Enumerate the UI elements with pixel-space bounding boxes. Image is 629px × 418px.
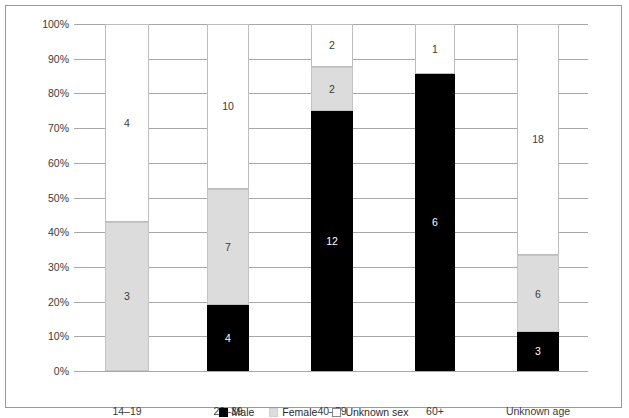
bar-segment-female[interactable]: 3 [105,222,149,371]
y-axis-label-10: 10% [25,330,69,342]
legend-item-unknown-sex[interactable]: Unknown sex [332,406,408,418]
tick-90 [74,59,105,60]
bar-segment-female[interactable]: 6 [517,255,559,332]
bar-value-label: 2 [329,40,335,51]
bar-segment-male[interactable]: 6 [415,74,455,371]
bar-value-label: 18 [532,134,544,145]
bar-value-label: 2 [329,84,335,95]
bar-segment-male[interactable]: 4 [207,305,249,371]
tick-20 [74,302,105,303]
legend-swatch-female-icon [269,408,278,417]
bar-column-20-39[interactable]: 4 7 10 [207,24,249,371]
y-axis-label-30: 30% [25,261,69,273]
y-axis-label-0: 0% [25,365,69,377]
tick-10 [74,336,105,337]
legend-swatch-unknown-sex-icon [332,408,341,417]
legend-label-unknown-sex: Unknown sex [345,406,408,418]
plot-area: 0% 10% 20% 30% 40% 50% 60% 70% 80% 90% 1… [105,24,588,371]
bar-column-unknown-age[interactable]: 3 6 18 [517,24,559,371]
y-axis-label-20: 20% [25,296,69,308]
bar-segment-female[interactable]: 2 [311,67,353,110]
bar-segment-unknown-sex[interactable]: 4 [105,24,149,222]
tick-50 [74,198,105,199]
bar-column-60-plus[interactable]: 6 1 [415,24,455,371]
bar-value-label: 7 [225,242,231,253]
bar-value-label: 1 [432,44,438,55]
x-axis-line [74,371,588,372]
bar-value-label: 3 [535,346,541,357]
y-axis-label-100: 100% [25,18,69,30]
chart-legend: Male Female Unknown sex [6,406,621,418]
tick-30 [74,267,105,268]
legend-label-male: Male [232,406,255,418]
tick-40 [74,232,105,233]
bar-segment-unknown-sex[interactable]: 2 [311,24,353,67]
tick-100 [74,24,105,25]
bar-value-label: 6 [535,289,541,300]
bar-segment-unknown-sex[interactable]: 1 [415,24,455,74]
y-axis-label-90: 90% [25,53,69,65]
legend-item-female[interactable]: Female [269,406,317,418]
bar-segment-male[interactable]: 3 [517,332,559,371]
chart-frame: 0% 10% 20% 30% 40% 50% 60% 70% 80% 90% 1… [5,5,622,408]
bar-column-14-19[interactable]: 3 4 [105,24,149,371]
legend-swatch-male-icon [219,408,228,417]
bar-value-label: 6 [432,217,438,228]
bar-segment-male[interactable]: 12 [311,111,353,371]
y-axis-label-80: 80% [25,87,69,99]
bar-segment-unknown-sex[interactable]: 18 [517,24,559,255]
tick-80 [74,93,105,94]
bar-value-label: 4 [124,118,130,129]
y-axis-label-50: 50% [25,192,69,204]
y-axis-label-60: 60% [25,157,69,169]
legend-item-male[interactable]: Male [219,406,255,418]
bar-value-label: 12 [326,236,338,247]
bar-value-label: 10 [222,101,234,112]
legend-label-female: Female [282,406,317,418]
bar-column-40-59[interactable]: 12 2 2 [311,24,353,371]
bar-segment-unknown-sex[interactable]: 10 [207,24,249,189]
y-axis-label-70: 70% [25,122,69,134]
bar-value-label: 3 [124,291,130,302]
tick-60 [74,163,105,164]
bar-segment-female[interactable]: 7 [207,189,249,305]
bar-value-label: 4 [225,333,231,344]
tick-70 [74,128,105,129]
y-axis-label-40: 40% [25,226,69,238]
